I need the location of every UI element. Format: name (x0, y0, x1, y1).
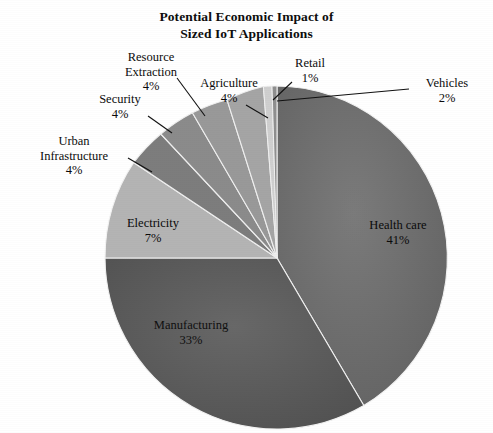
inner-label-text-manufacturing: Manufacturing (154, 318, 228, 332)
callout-label-vehicles: Vehicles (426, 76, 468, 90)
callout-pct-agriculture: 4% (186, 91, 272, 106)
inner-label-manufacturing: Manufacturing 33% (133, 318, 249, 347)
callout-label-urban-line-1: Urban (58, 134, 89, 148)
callout-retail: Retail 1% (282, 56, 338, 85)
inner-label-text-health-care: Health care (369, 218, 426, 232)
inner-label-text-electricity: Electricity (127, 216, 179, 230)
inner-pct-electricity: 7% (110, 231, 196, 246)
inner-label-health-care: Health care 41% (352, 218, 444, 247)
callout-label-retail: Retail (295, 56, 325, 70)
callout-label-agriculture: Agriculture (200, 76, 258, 90)
inner-pct-health-care: 41% (352, 233, 444, 248)
callout-security: Security 4% (82, 92, 158, 121)
callout-pct-security: 4% (82, 107, 158, 122)
callout-pct-vehicles: 2% (412, 91, 482, 106)
callout-agriculture: Agriculture 4% (186, 76, 272, 105)
inner-pct-manufacturing: 33% (133, 333, 249, 348)
pie-svg (0, 0, 493, 433)
callout-label-resource-line-1: Resource (128, 50, 175, 64)
callout-label-security: Security (99, 92, 141, 106)
callout-pct-urban-infrastructure: 4% (22, 163, 126, 178)
callout-label-urban-line-2: Infrastructure (40, 149, 108, 163)
pie-slices (105, 86, 447, 429)
callout-label-resource-line-2: Extraction (125, 65, 177, 79)
inner-label-electricity: Electricity 7% (110, 216, 196, 245)
callout-pct-retail: 1% (282, 71, 338, 86)
pie-chart-figure: Potential Economic Impact of Sized IoT A… (0, 0, 493, 433)
callout-resource-extraction: Resource Extraction 4% (104, 50, 198, 94)
callout-vehicles: Vehicles 2% (412, 76, 482, 105)
callout-urban-infrastructure: Urban Infrastructure 4% (22, 134, 126, 178)
